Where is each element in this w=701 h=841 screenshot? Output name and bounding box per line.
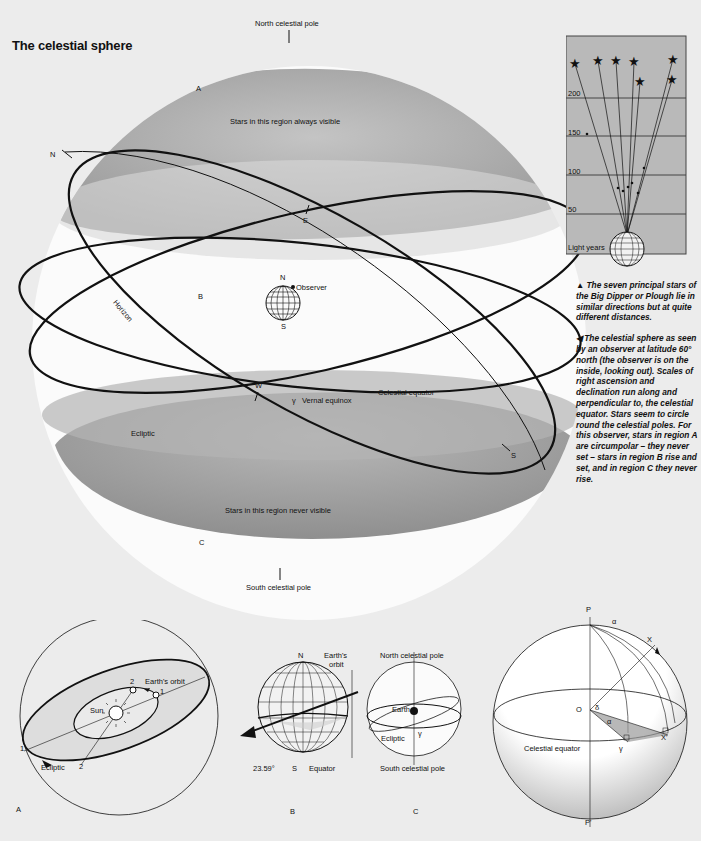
svg-text:★: ★	[634, 74, 646, 89]
svg-text:★: ★	[628, 54, 640, 69]
point-w-label: W	[255, 381, 262, 390]
vernal-equinox-label: Vernal equinox	[302, 396, 352, 405]
n-label-b: N	[298, 651, 303, 660]
south-pole-label-c: South celestial pole	[380, 764, 445, 773]
pos2-label: 2	[130, 677, 134, 686]
equator-label-b: Equator	[309, 764, 335, 773]
axis-arrow-icon	[240, 726, 256, 738]
proj1-label: 1	[20, 744, 24, 753]
earth-orbit-label: Earth's orbit	[145, 677, 185, 686]
earth-globe-icon	[610, 232, 644, 266]
svg-text:★: ★	[592, 53, 604, 68]
vernal-symbol-d: γ	[619, 744, 623, 753]
south-celestial-pole-label: South celestial pole	[246, 583, 311, 592]
s-label-b: S	[292, 764, 297, 773]
earth-position-1	[153, 692, 159, 698]
alpha-label-top: α	[612, 617, 616, 626]
orbit-label-b2: orbit	[329, 660, 344, 669]
earth-dot-icon	[410, 707, 418, 715]
proj2-label: 2	[79, 762, 83, 771]
never-visible-label: Stars in this region never visible	[225, 506, 331, 515]
svg-text:★: ★	[610, 53, 622, 68]
x-label: X	[647, 635, 652, 644]
x-prime-label: X'	[661, 733, 667, 742]
figure-d-diagram	[485, 605, 701, 841]
svg-text:★: ★	[666, 72, 678, 87]
svg-text:★: ★	[569, 56, 581, 71]
figure-a-diagram	[0, 620, 230, 841]
ecliptic-label-c: Ecliptic	[381, 734, 405, 743]
ecliptic-label-a: Ecliptic	[41, 763, 65, 772]
point-s-label: S	[511, 451, 516, 460]
panel-a-label: A	[16, 805, 21, 814]
delta-label: δ	[595, 703, 599, 712]
scale-50: 50	[568, 205, 576, 214]
always-visible-label: Stars in this region always visible	[230, 117, 340, 126]
ecliptic-label: Ecliptic	[131, 429, 155, 438]
vernal-symbol-c: γ	[418, 729, 422, 738]
panel-c-label: C	[413, 807, 418, 816]
north-pole-label-c: North celestial pole	[380, 651, 444, 660]
sun-label: Sun	[90, 706, 103, 715]
scale-150: 150	[568, 128, 581, 137]
north-celestial-pole-label: North celestial pole	[255, 19, 319, 28]
big-dipper-caption: ▲ The seven principal stars of the Big D…	[576, 280, 698, 323]
earth-label-c: Earth	[392, 705, 410, 714]
svg-text:★: ★	[667, 52, 679, 67]
point-n-label: N	[50, 150, 55, 159]
celestial-equator-label-d: Celestial equator	[524, 744, 580, 753]
scale-100: 100	[568, 167, 581, 176]
p-prime-label: P'	[585, 818, 591, 827]
orbit-label-b1: Earth's	[324, 651, 347, 660]
region-a-label: A	[196, 84, 201, 93]
light-years-label: Light years	[568, 243, 605, 252]
captions: ▲ The seven principal stars of the Big D…	[576, 280, 698, 494]
vernal-symbol: γ	[292, 396, 296, 405]
observer-label: Observer	[296, 283, 327, 292]
o-label: O	[576, 705, 582, 714]
observer-s-label: S	[281, 322, 286, 331]
alpha-label: α	[607, 717, 611, 726]
big-dipper-distance-chart: ★ ★ ★ ★ ★ ★ ★	[566, 35, 696, 267]
observer-globe-icon	[266, 285, 300, 320]
scale-200: 200	[568, 89, 581, 98]
point-e-label: E	[303, 216, 308, 225]
observer-n-label: N	[280, 273, 285, 282]
sphere-caption: ◀ The celestial sphere as seen by an obs…	[576, 333, 698, 484]
p-label: P	[586, 605, 591, 614]
region-c-label: C	[199, 538, 204, 547]
region-b-label: B	[198, 292, 203, 301]
figure-c-diagram	[360, 640, 480, 780]
panel-b-label: B	[290, 807, 295, 816]
pos1-label: 1	[160, 687, 164, 696]
earth-position-2	[130, 687, 136, 693]
tilt-label: 23.59°	[253, 764, 275, 773]
celestial-equator-label: Celestial equator	[378, 388, 434, 397]
